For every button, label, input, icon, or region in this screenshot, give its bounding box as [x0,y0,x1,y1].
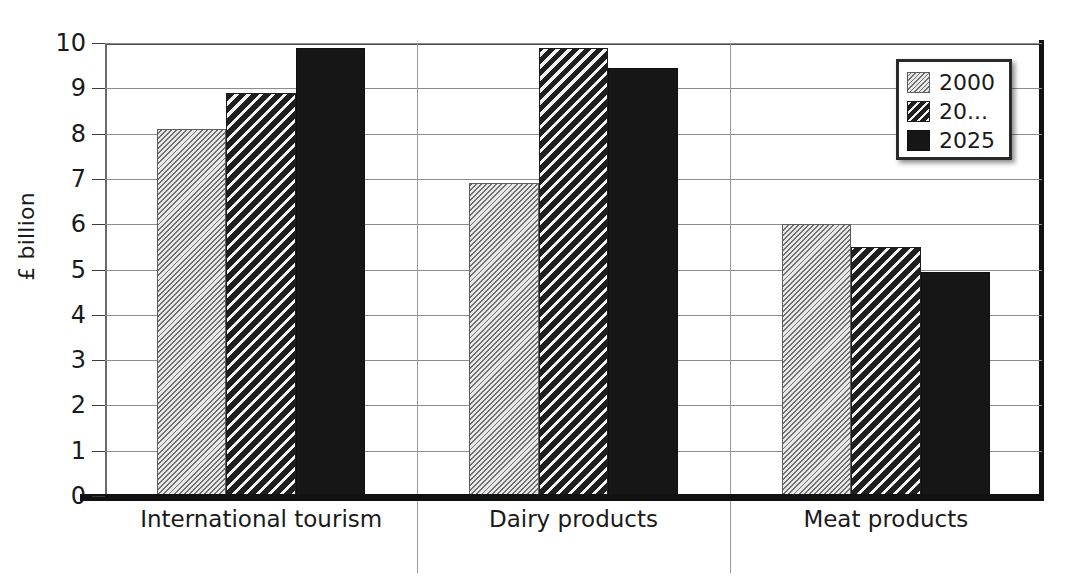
bar [539,48,609,496]
bar [921,272,991,496]
x-axis-category-label: International tourism [105,506,417,532]
y-axis-tick-label: 6 [52,212,86,236]
bar-chart: £ billion 012345678910 2000 20... 2025 I… [0,0,1068,581]
y-axis-tick-mark [92,451,105,452]
chart-legend: 2000 20... 2025 [896,59,1012,160]
x-axis-category-label: Meat products [730,506,1042,532]
y-axis-tick-mark [92,315,105,316]
y-axis-tick-mark [92,43,105,44]
y-axis-tick-label: 3 [52,348,86,372]
bar [469,183,539,496]
x-axis-baseline [80,494,1044,501]
y-axis-tick-label: 2 [52,393,86,417]
legend-item-label: 20... [939,101,988,123]
y-axis-tick-mark [92,405,105,406]
y-axis-tick-label: 5 [52,258,86,282]
bar [226,93,296,496]
y-axis-tick-mark [92,360,105,361]
bar [608,68,678,496]
y-axis-tick-label: 4 [52,303,86,327]
legend-item: 2000 [907,68,1009,97]
y-axis-tick-mark [92,134,105,135]
y-axis-tick-label: 9 [52,76,86,100]
bar [157,129,227,496]
bar [782,224,852,496]
y-axis-tick-mark [92,224,105,225]
light-hatch-swatch-icon [907,72,930,93]
y-axis-tick-mark [92,88,105,89]
y-axis-tick-mark [92,179,105,180]
solid-black-swatch-icon [907,130,930,151]
bar [851,247,921,496]
y-axis-tick-mark [92,496,105,497]
y-axis-tick-label: 1 [52,439,86,463]
y-axis-tick-label: 10 [52,31,86,55]
legend-item-label: 2000 [939,72,995,94]
legend-item: 2025 [907,126,1009,155]
gridline [105,43,1042,44]
legend-item: 20... [907,97,1009,126]
bar [296,48,366,496]
y-axis-tick-label: 8 [52,122,86,146]
y-axis-label: £ billion [14,167,39,307]
y-axis-tick-label: 7 [52,167,86,191]
x-axis-category-label: Dairy products [417,506,729,532]
y-axis-tick-mark [92,270,105,271]
legend-item-label: 2025 [939,130,995,152]
dark-hatch-swatch-icon [907,101,930,122]
